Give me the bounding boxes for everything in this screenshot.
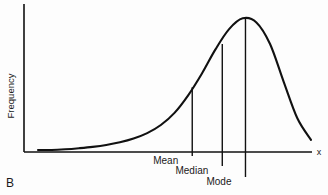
panel-label: B	[6, 176, 14, 190]
x-axis-label: x	[317, 147, 322, 157]
figure-panel-b: Frequency x Mean Median Mode B	[0, 0, 328, 195]
y-axis-label: Frequency	[5, 73, 16, 118]
mode-marker-label: Mode	[206, 176, 231, 187]
distribution-chart: Frequency x Mean Median Mode B	[0, 0, 328, 195]
median-marker-label: Median	[175, 165, 208, 176]
frequency-curve	[38, 18, 311, 150]
